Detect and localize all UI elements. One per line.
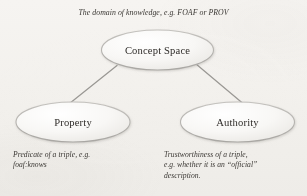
caption-property-note: Predicate of a triple, e.g. foaf:knows (13, 150, 148, 171)
edge-concept-authority (196, 64, 243, 104)
diagram-canvas: Concept Space Property Authority The dom… (0, 0, 307, 196)
caption-domain-of-knowledge: The domain of knowledge, e.g. FOAF or PR… (0, 8, 307, 18)
node-label-authority: Authority (216, 117, 259, 128)
caption-authority-note: Trustworthiness of a triple, e.g. whethe… (164, 150, 304, 181)
edge-concept-property (70, 66, 118, 104)
node-label-concept-space: Concept Space (125, 45, 190, 56)
node-label-property: Property (54, 117, 92, 128)
